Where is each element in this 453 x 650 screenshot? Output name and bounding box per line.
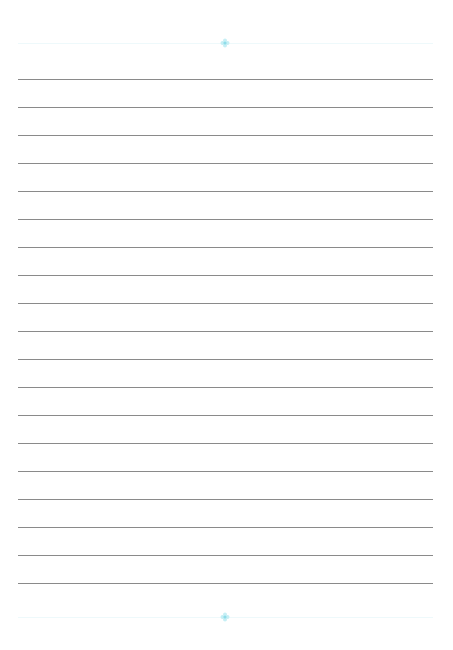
flower-ornament-icon	[220, 612, 230, 622]
ruled-line	[18, 107, 433, 108]
ruled-line	[18, 527, 433, 528]
ruled-line	[18, 135, 433, 136]
ruled-line	[18, 219, 433, 220]
ruled-line	[18, 499, 433, 500]
ruled-line	[18, 275, 433, 276]
ruled-line	[18, 191, 433, 192]
ruled-line	[18, 583, 433, 584]
ruled-line	[18, 359, 433, 360]
ruled-line	[18, 387, 433, 388]
ruled-line	[18, 443, 433, 444]
ruled-line	[18, 303, 433, 304]
flower-ornament-icon	[220, 38, 230, 48]
ruled-line	[18, 415, 433, 416]
ruled-line	[18, 471, 433, 472]
ruled-line	[18, 79, 433, 80]
lined-paper-page	[0, 0, 453, 650]
ruled-line	[18, 163, 433, 164]
ruled-line	[18, 555, 433, 556]
ruled-line	[18, 331, 433, 332]
ruled-line	[18, 247, 433, 248]
